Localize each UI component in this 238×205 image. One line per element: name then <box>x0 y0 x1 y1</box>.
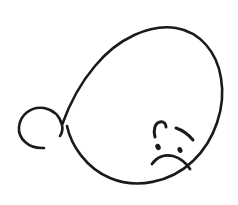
artboard <box>0 0 238 205</box>
line-drawing-canvas <box>0 0 238 205</box>
canvas-background <box>0 0 238 205</box>
